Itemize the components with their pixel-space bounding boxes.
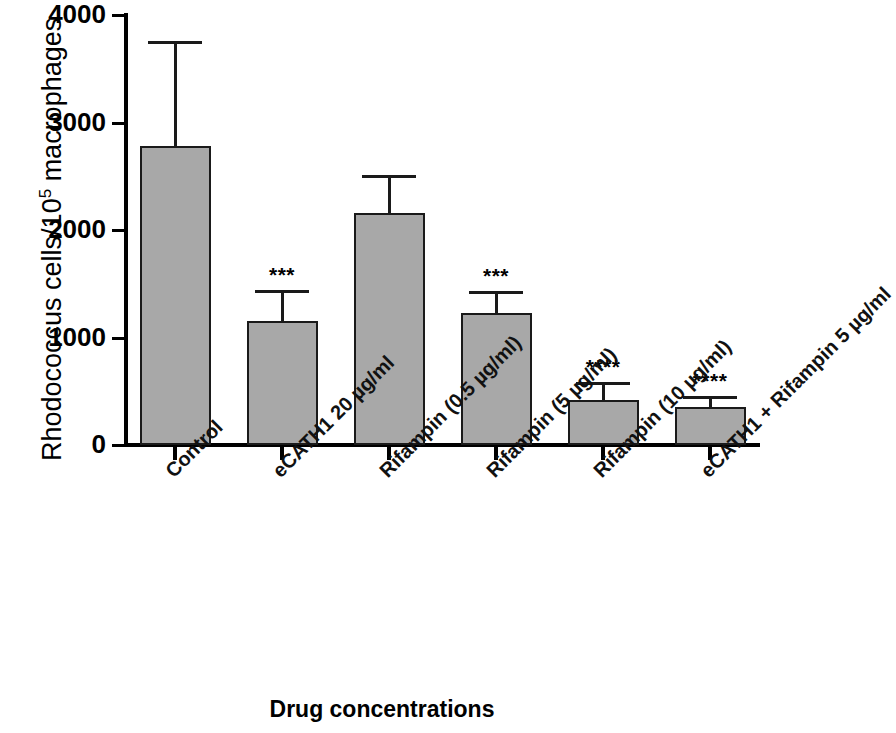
bar [354,213,425,445]
error-bar-cap [148,41,202,44]
error-bar-stem [174,41,177,146]
error-bar-cap [255,290,309,293]
y-axis-tick-label: 2000 [14,216,106,242]
y-axis-title-tail: macrophages [37,18,67,189]
error-bar-cap [469,291,523,294]
y-axis-tick-label: 3000 [14,109,106,135]
y-axis-tick-label: 4000 [14,1,106,27]
error-bar-stem [388,175,391,213]
error-bar-cap [362,175,416,178]
y-axis-tick-label: 0 [14,431,106,457]
y-axis-title-exponent: 5 [36,189,55,198]
error-bar-stem [495,291,498,313]
x-axis-title: Drug concentrations [0,696,764,723]
significance-marker: *** [446,265,546,286]
plot-area: ************** [124,13,760,445]
y-axis-tick-label: 1000 [14,324,106,350]
error-bar-stem [281,290,284,321]
significance-marker: *** [232,264,332,285]
error-bar-cap [683,396,737,399]
bar [140,146,211,445]
